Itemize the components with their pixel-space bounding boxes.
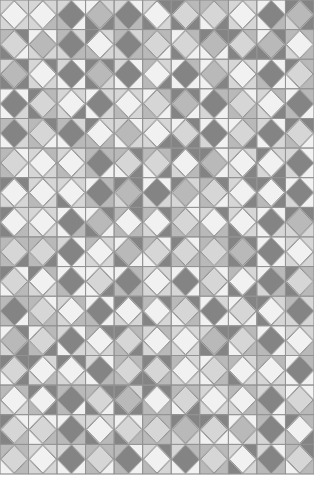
quilt-cell (285, 207, 314, 237)
quilt-cell (114, 326, 143, 356)
quilt-cell (114, 267, 143, 297)
quilt-cell (0, 30, 29, 60)
quilt-cell (0, 178, 29, 208)
quilt-cell (228, 119, 257, 149)
quilt-cell (257, 326, 286, 356)
quilt-cell (228, 178, 257, 208)
quilt-cell (285, 415, 314, 445)
quilt-cell (171, 356, 200, 386)
quilt-cell (57, 119, 86, 149)
quilt-cell (29, 356, 58, 386)
quilt-cell (285, 148, 314, 178)
quilt-cell (57, 30, 86, 60)
quilt-cell (86, 444, 115, 474)
quilt-cell (143, 59, 172, 89)
quilt-cell (86, 326, 115, 356)
quilt-cell (114, 385, 143, 415)
quilt-cell (114, 237, 143, 267)
quilt-cell (257, 415, 286, 445)
quilt-cell (86, 296, 115, 326)
quilt-cell (200, 415, 229, 445)
quilt-cell (57, 326, 86, 356)
quilt-cell (257, 89, 286, 119)
quilt-cell (200, 119, 229, 149)
quilt-cell (171, 148, 200, 178)
quilt-cell (0, 119, 29, 149)
quilt-cell (257, 148, 286, 178)
quilt-cell (0, 267, 29, 297)
quilt-cell (257, 0, 286, 30)
quilt-cell (171, 444, 200, 474)
quilt-cell (171, 207, 200, 237)
quilt-cell (285, 178, 314, 208)
quilt-cell (57, 0, 86, 30)
quilt-cell (0, 148, 29, 178)
quilt-cell (200, 326, 229, 356)
quilt-cell (257, 267, 286, 297)
quilt-cell (0, 296, 29, 326)
quilt-cell (200, 444, 229, 474)
quilt-cell (228, 59, 257, 89)
quilt-cell (114, 59, 143, 89)
quilt-cell (143, 89, 172, 119)
quilt-cell (29, 89, 58, 119)
quilt-cell (114, 89, 143, 119)
quilt-cell (143, 207, 172, 237)
quilt-cell (171, 59, 200, 89)
quilt-cell (228, 356, 257, 386)
quilt-cell (0, 356, 29, 386)
quilt-cell (171, 89, 200, 119)
quilt-cell (143, 237, 172, 267)
quilt-cell (200, 237, 229, 267)
quilt-cell (257, 30, 286, 60)
quilt-cell (143, 178, 172, 208)
quilt-cell (285, 444, 314, 474)
quilt-cell (29, 30, 58, 60)
quilt-cell (285, 356, 314, 386)
quilt-cell (143, 267, 172, 297)
quilt-cell (228, 237, 257, 267)
quilt-cell (86, 119, 115, 149)
quilt-cell (285, 267, 314, 297)
quilt-cell (86, 0, 115, 30)
quilt-cell (143, 148, 172, 178)
quilt-cell (285, 237, 314, 267)
quilt-cell (29, 415, 58, 445)
quilt-cell (257, 178, 286, 208)
quilt-cell (257, 385, 286, 415)
quilt-cell (114, 296, 143, 326)
quilt-cell (0, 0, 29, 30)
quilt-cell (228, 0, 257, 30)
quilt-cell (200, 0, 229, 30)
quilt-pattern (0, 0, 314, 480)
quilt-cell (285, 296, 314, 326)
quilt-cell (29, 444, 58, 474)
quilt-cell (86, 267, 115, 297)
quilt-cell (143, 444, 172, 474)
quilt-cell (257, 237, 286, 267)
quilt-cell (200, 148, 229, 178)
quilt-cell (257, 207, 286, 237)
quilt-cell (57, 89, 86, 119)
quilt-cell (57, 267, 86, 297)
quilt-cell (228, 148, 257, 178)
quilt-cell (29, 385, 58, 415)
quilt-cell (228, 326, 257, 356)
quilt-cell (171, 178, 200, 208)
quilt-cell (57, 444, 86, 474)
quilt-cell (171, 267, 200, 297)
quilt-cell (171, 296, 200, 326)
quilt-cell (29, 296, 58, 326)
quilt-cell (0, 59, 29, 89)
quilt-cell (228, 296, 257, 326)
quilt-cell (0, 444, 29, 474)
quilt-cell (171, 326, 200, 356)
quilt-cell (171, 30, 200, 60)
quilt-cell (171, 0, 200, 30)
quilt-cell (0, 89, 29, 119)
quilt-cell (114, 178, 143, 208)
quilt-cell (57, 237, 86, 267)
quilt-cell (143, 415, 172, 445)
quilt-cell (29, 267, 58, 297)
quilt-cell (285, 59, 314, 89)
